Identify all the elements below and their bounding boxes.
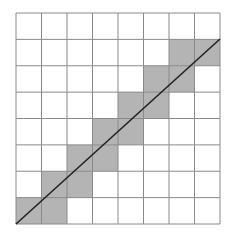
line-rasterization-grid-diagram (0, 0, 230, 232)
shaded-cell (118, 92, 144, 118)
shaded-cell (42, 171, 68, 197)
shaded-cell (42, 198, 68, 224)
shaded-cell (93, 119, 119, 145)
shaded-cell (169, 39, 195, 65)
shaded-cell (93, 145, 119, 171)
shaded-cell (169, 66, 195, 92)
shaded-cell (118, 119, 144, 145)
